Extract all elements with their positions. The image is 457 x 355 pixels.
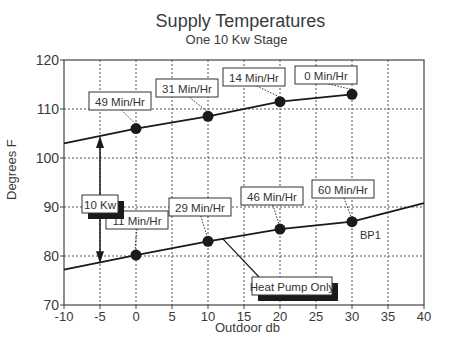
y-tick-label: 70	[43, 297, 59, 313]
min-per-hr-label-text: 46 Min/Hr	[247, 191, 297, 203]
ten-kw-label-text: 10 Kw	[84, 199, 117, 211]
x-tick-label: 40	[417, 309, 431, 324]
callout-leader	[122, 110, 135, 124]
x-tick-label: 5	[168, 309, 175, 324]
data-point-marker	[131, 250, 142, 261]
min-per-hr-label-text: 29 Min/Hr	[175, 202, 225, 214]
x-tick-label: 35	[381, 309, 395, 324]
x-tick-label: 10	[201, 309, 215, 324]
data-point-marker	[347, 89, 358, 100]
data-point-marker	[131, 123, 142, 134]
heat-pump-only-label-text: Heat Pump Only	[250, 281, 335, 293]
min-per-hr-label-text: 14 Min/Hr	[229, 72, 279, 84]
data-point-marker	[275, 96, 286, 107]
min-per-hr-label-text: 0 Min/Hr	[304, 70, 348, 82]
callout-leader	[329, 84, 351, 89]
callout-leader	[257, 86, 279, 97]
min-per-hr-label-text: 31 Min/Hr	[162, 83, 212, 95]
data-point-marker	[347, 216, 358, 227]
x-tick-label: 15	[237, 309, 251, 324]
x-tick-label: 30	[345, 309, 359, 324]
x-tick-label: -5	[94, 309, 106, 324]
heat-pump-leader	[222, 238, 259, 277]
y-tick-label: 100	[36, 150, 60, 166]
bp1-label: BP1	[360, 229, 381, 241]
callout-leader	[273, 205, 279, 224]
x-tick-label: 25	[309, 309, 323, 324]
x-tick-label: 0	[132, 309, 139, 324]
data-point-marker	[275, 224, 286, 235]
arrow-up-icon	[96, 136, 104, 148]
min-per-hr-label-text: 49 Min/Hr	[95, 96, 145, 108]
chart-plot: -10-5051015202530354070809010011012049 M…	[0, 0, 457, 355]
min-per-hr-label-text: 60 Min/Hr	[318, 184, 368, 196]
y-tick-label: 90	[43, 199, 59, 215]
x-tick-label: 20	[273, 309, 287, 324]
data-point-marker	[203, 111, 214, 122]
callout-leader	[201, 216, 207, 236]
y-tick-label: 110	[37, 101, 60, 117]
data-point-marker	[203, 236, 214, 247]
y-tick-label: 80	[43, 248, 59, 264]
y-tick-label: 120	[36, 52, 60, 68]
